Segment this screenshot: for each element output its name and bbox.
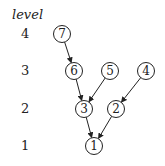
- node-label: 6: [70, 64, 78, 78]
- node-label: 4: [142, 64, 150, 78]
- edge-7-to-6: [65, 42, 72, 62]
- edge-4-to-2: [122, 78, 141, 102]
- node-label: 2: [112, 102, 120, 116]
- node-3: 3: [76, 101, 93, 118]
- level-label: 3: [21, 63, 29, 78]
- edge-6-to-3: [76, 79, 82, 100]
- edges: [65, 42, 141, 138]
- edge-5-to-3: [89, 78, 105, 102]
- node-label: 3: [80, 102, 88, 116]
- node-4: 4: [138, 63, 155, 80]
- node-6: 6: [66, 63, 83, 80]
- nodes: 7654321: [54, 26, 155, 155]
- node-5: 5: [102, 63, 119, 80]
- level-labels: 4 3 2 1: [21, 26, 29, 153]
- node-7: 7: [54, 26, 71, 43]
- level-label: 2: [21, 101, 29, 116]
- level-axis-title: level: [12, 7, 43, 22]
- level-label: 1: [21, 138, 29, 153]
- level-tree-diagram: level 4 3 2 1 7654321: [0, 0, 165, 166]
- edge-2-to-1: [99, 116, 112, 138]
- node-label: 7: [58, 27, 66, 41]
- edge-3-to-1: [86, 117, 91, 137]
- node-label: 1: [90, 139, 98, 153]
- node-1: 1: [86, 138, 103, 155]
- level-label: 4: [21, 26, 29, 41]
- node-label: 5: [106, 64, 114, 78]
- node-2: 2: [108, 101, 125, 118]
